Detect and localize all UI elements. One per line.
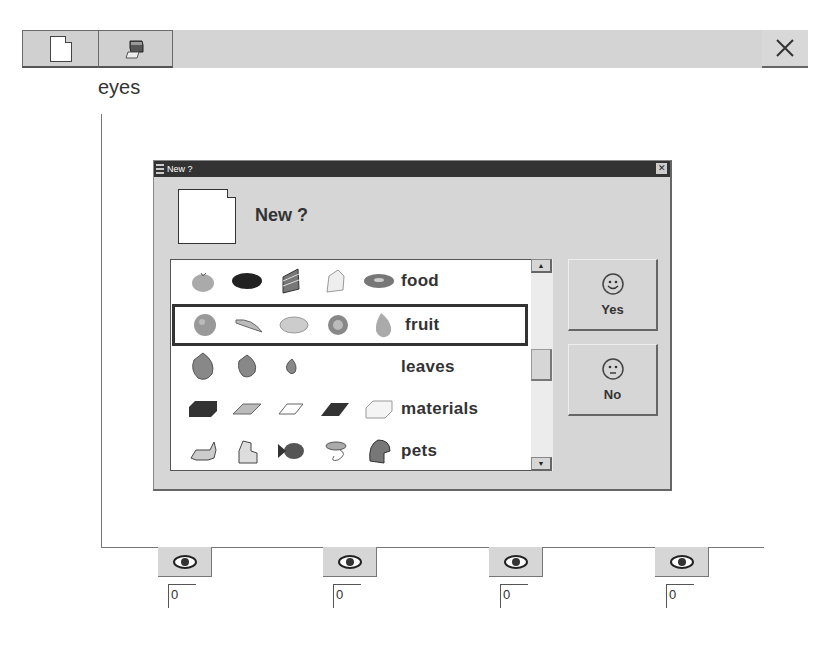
eye-button-3[interactable] [489, 547, 543, 577]
banana-icon [227, 310, 271, 340]
white-slab-icon [269, 394, 313, 424]
grip-icon [156, 164, 164, 174]
eye-button-4[interactable] [655, 547, 709, 577]
list-item-label: leaves [401, 357, 455, 377]
scroll-thumb[interactable] [531, 349, 552, 381]
medium-leaf-icon [225, 352, 269, 382]
print-button[interactable] [98, 30, 173, 68]
eye-counter-3[interactable]: 0 [500, 584, 528, 608]
white-block-icon [357, 394, 401, 424]
scroll-down-button[interactable]: ▼ [531, 457, 552, 471]
kiwi-icon [316, 310, 360, 340]
grapes-icon [272, 310, 316, 340]
list-item-label: materials [401, 399, 478, 419]
pear-icon [361, 310, 405, 340]
no-button[interactable]: No [568, 344, 658, 416]
mouse-icon [313, 436, 357, 466]
eye-counter-2[interactable]: 0 [333, 584, 361, 608]
apple-icon [181, 266, 225, 296]
frame-bottom-line [543, 547, 655, 548]
light-slab-icon [225, 394, 269, 424]
close-icon [775, 38, 795, 58]
list-item-label: pets [401, 441, 437, 461]
donut-icon [357, 266, 401, 296]
list-item-pets[interactable]: pets [171, 430, 531, 472]
eye-icon [337, 554, 363, 570]
dialog-titlebar[interactable]: New ? ✕ [154, 161, 670, 177]
new-document-icon [178, 189, 236, 244]
parrot-icon [357, 436, 401, 466]
new-button[interactable] [22, 30, 99, 68]
eye-button-2[interactable] [323, 547, 377, 577]
printer-icon [124, 37, 148, 61]
eye-counter-1[interactable]: 0 [168, 584, 196, 608]
list-scrollbar[interactable]: ▲ ▼ [531, 259, 553, 471]
category-list[interactable]: food fruit leaves [170, 259, 553, 471]
neutral-face-icon [601, 357, 625, 381]
page-label: eyes [98, 76, 140, 99]
dark-block-icon [181, 394, 225, 424]
frame-bottom-line [101, 547, 158, 548]
list-item-materials[interactable]: materials [171, 388, 531, 430]
eye-icon [669, 554, 695, 570]
list-item-fruit[interactable]: fruit [172, 304, 528, 346]
cake-slice-icon [269, 266, 313, 296]
eye-icon [172, 554, 198, 570]
small-leaf-icon [269, 352, 313, 382]
dialog-heading: New ? [255, 205, 308, 226]
cookie-icon [225, 266, 269, 296]
list-item-leaves[interactable]: leaves [171, 346, 531, 388]
dog-icon [225, 436, 269, 466]
cheese-icon [313, 266, 357, 296]
cat-icon [181, 436, 225, 466]
list-item-label: food [401, 271, 439, 291]
happy-face-icon [601, 272, 625, 296]
frame-bottom-line [211, 547, 323, 548]
new-document-icon [50, 36, 72, 62]
scroll-up-button[interactable]: ▲ [531, 259, 552, 273]
large-leaf-icon [181, 352, 225, 382]
list-item-food[interactable]: food [171, 260, 531, 302]
close-button[interactable] [762, 30, 808, 68]
yes-button[interactable]: Yes [568, 259, 658, 331]
dialog-close-button[interactable]: ✕ [656, 163, 667, 174]
eye-icon [503, 554, 529, 570]
orange-icon [183, 310, 227, 340]
frame-bottom-line [377, 547, 489, 548]
eye-counter-4[interactable]: 0 [666, 584, 694, 608]
eye-button-1[interactable] [158, 547, 212, 577]
yes-label: Yes [601, 302, 623, 317]
frame-bottom-line [709, 547, 764, 548]
list-item-label: fruit [405, 315, 440, 335]
no-label: No [604, 387, 621, 402]
new-dialog: New ? ✕ New ? food fruit [153, 160, 672, 491]
dialog-title: New ? [167, 164, 193, 174]
fish-icon [269, 436, 313, 466]
black-slab-icon [313, 394, 357, 424]
frame-left-line [101, 114, 102, 547]
